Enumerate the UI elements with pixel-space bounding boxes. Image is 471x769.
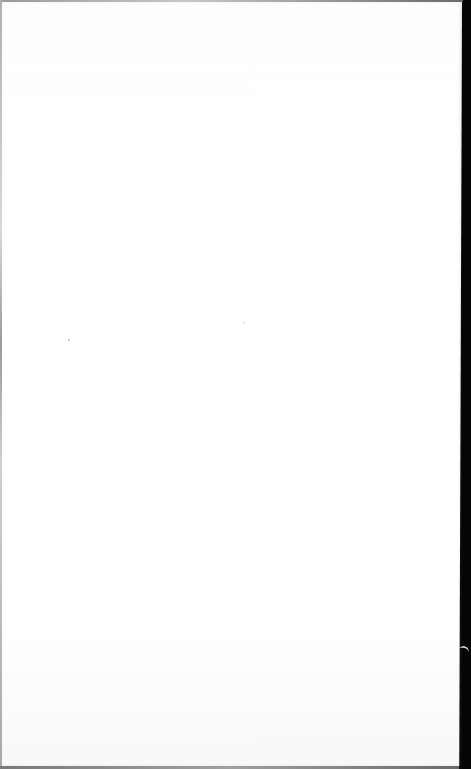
- dust-speck: [243, 322, 245, 324]
- blank-paper-sheet: [2, 2, 462, 766]
- scanned-page: [0, 0, 471, 769]
- paper-edge-top: [0, 0, 463, 2]
- paper-edge-left: [0, 0, 2, 769]
- dust-speck: [68, 339, 70, 341]
